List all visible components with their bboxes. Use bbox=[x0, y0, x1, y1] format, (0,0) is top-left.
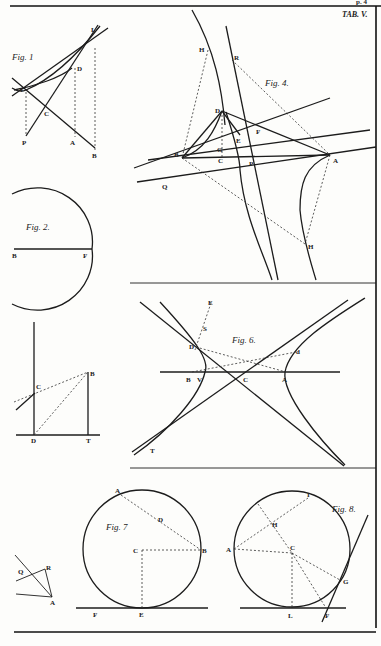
fig6-caption: Fig. 6. bbox=[231, 335, 256, 345]
label-I: I bbox=[307, 491, 310, 499]
label-F: F bbox=[256, 128, 260, 136]
label-C: C bbox=[243, 376, 248, 384]
label-R: R bbox=[46, 564, 52, 572]
label-d: d bbox=[296, 348, 300, 356]
label-F: F bbox=[93, 611, 97, 619]
figure-7: Fig. 7 A D C B F E bbox=[76, 487, 208, 619]
label-T: T bbox=[150, 447, 155, 455]
figure-6: Fig. 6. E S D d B V C A T bbox=[132, 298, 365, 466]
label-L: L bbox=[91, 26, 96, 34]
label-A: A bbox=[226, 546, 231, 554]
label-D: D bbox=[215, 107, 220, 115]
label-Q: Q bbox=[18, 568, 24, 576]
label-Q: Q bbox=[162, 183, 168, 191]
figure-5: Q R A bbox=[15, 555, 55, 607]
figure-8: Fig. 8. I H A C G L F bbox=[226, 491, 368, 622]
label-F: F bbox=[83, 252, 87, 260]
figure-4: Fig. 4. H R D E F G B C P A Q H bbox=[134, 10, 376, 280]
label-R: R bbox=[234, 54, 240, 62]
page-ref: p. 4 bbox=[356, 0, 367, 6]
label-A: A bbox=[50, 599, 55, 607]
label-H: H bbox=[272, 521, 278, 529]
label-C: C bbox=[290, 544, 295, 552]
label-V: V bbox=[19, 86, 24, 94]
fig8-caption: Fig. 8. bbox=[331, 504, 356, 514]
label-A: A bbox=[333, 157, 338, 165]
label-B: B bbox=[202, 547, 207, 555]
label-B: B bbox=[186, 376, 191, 384]
label-D: D bbox=[77, 65, 82, 73]
label-H2: H bbox=[308, 243, 314, 251]
label-P: P bbox=[22, 139, 27, 147]
label-B: B bbox=[92, 152, 97, 160]
label-V: V bbox=[197, 376, 202, 384]
label-H: H bbox=[199, 46, 205, 54]
label-D: D bbox=[31, 437, 36, 445]
label-B: B bbox=[12, 252, 17, 260]
label-C: C bbox=[218, 157, 223, 165]
label-A: A bbox=[282, 376, 287, 384]
fig1-caption: Fig. 1 bbox=[11, 52, 34, 62]
label-E: E bbox=[208, 299, 213, 307]
label-B: B bbox=[174, 151, 179, 159]
figure-2: Fig. 2. B F bbox=[12, 188, 92, 310]
fig7-caption: Fig. 7 bbox=[105, 522, 128, 532]
figure-3: C B D T bbox=[14, 322, 100, 445]
label-S: S bbox=[203, 325, 207, 333]
label-E: E bbox=[139, 611, 144, 619]
label-A: A bbox=[70, 139, 75, 147]
label-G: G bbox=[217, 146, 223, 154]
label-C: C bbox=[44, 110, 49, 118]
figure-1: Fig. 1 L D V C P A B bbox=[11, 25, 108, 160]
label-E: E bbox=[236, 137, 241, 145]
label-C: C bbox=[133, 547, 138, 555]
fig2-caption: Fig. 2. bbox=[25, 222, 50, 232]
label-C: C bbox=[36, 383, 41, 391]
label-P: P bbox=[249, 160, 254, 168]
label-A: A bbox=[115, 487, 120, 495]
label-T: T bbox=[86, 437, 91, 445]
label-D: D bbox=[158, 516, 163, 524]
label-D: D bbox=[189, 343, 194, 351]
label-B: B bbox=[90, 370, 95, 378]
plate-title: TAB. V. bbox=[342, 10, 367, 19]
label-F: F bbox=[325, 612, 329, 620]
label-L: L bbox=[288, 612, 293, 620]
fig4-caption: Fig. 4. bbox=[264, 78, 289, 88]
geometry-plate: TAB. V. p. 4 Fig. 1 L D V C P A B Fig. 2… bbox=[0, 0, 381, 646]
label-G: G bbox=[343, 578, 349, 586]
